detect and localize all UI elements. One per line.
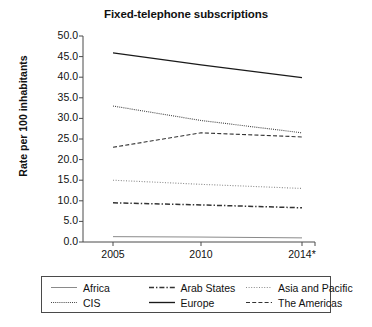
- chart-legend: AfricaArab StatesAsia and Pacific CISEur…: [41, 276, 331, 313]
- series-line-asia-and-pacific: [113, 180, 302, 188]
- legend-swatch-icon: [246, 298, 272, 307]
- legend-row: AfricaArab StatesAsia and Pacific: [46, 280, 326, 295]
- series-line-europe: [113, 53, 302, 78]
- legend-item-label: CIS: [83, 297, 101, 309]
- y-axis-tick-label: 5.0: [32, 214, 78, 226]
- series-line-cis: [113, 106, 302, 133]
- y-axis-tick-label: 25.0: [32, 132, 78, 144]
- page-title: Fixed-telephone subscriptions: [0, 8, 372, 20]
- y-axis-tick-labels: 0.05.010.015.020.025.030.035.040.045.050…: [26, 36, 78, 242]
- series-line-the-americas: [113, 133, 302, 147]
- legend-swatch-icon: [51, 283, 77, 292]
- y-axis-tick-label: 45.0: [32, 50, 78, 62]
- y-axis-tick-label: 10.0: [32, 194, 78, 206]
- y-axis-tick-label: 20.0: [32, 153, 78, 165]
- chart-canvas: [83, 36, 315, 242]
- legend-item-cis[interactable]: CIS: [46, 295, 149, 310]
- y-axis-tick-label: 50.0: [32, 29, 78, 41]
- legend-item-the-americas[interactable]: The Americas: [246, 295, 326, 310]
- legend-item-label: Europe: [181, 297, 215, 309]
- y-axis-tick-label: 35.0: [32, 91, 78, 103]
- legend-item-label: Africa: [83, 282, 110, 294]
- series-line-africa: [113, 237, 302, 238]
- chart-figure: Fixed-telephone subscriptions Rate per 1…: [0, 0, 372, 327]
- legend-swatch-icon: [149, 283, 175, 292]
- legend-item-label: Arab States: [181, 282, 236, 294]
- legend-item-asia-and-pacific[interactable]: Asia and Pacific: [246, 280, 326, 295]
- legend-item-label: The Americas: [278, 297, 342, 309]
- x-axis-tick-label: 2010: [189, 248, 212, 260]
- legend-row: CISEuropeThe Americas: [46, 295, 326, 310]
- plot-area: [83, 36, 315, 242]
- legend-swatch-icon: [149, 298, 175, 307]
- legend-swatch-icon: [51, 298, 77, 307]
- legend-item-africa[interactable]: Africa: [46, 280, 149, 295]
- y-axis-tick-label: 0.0: [32, 235, 78, 247]
- y-axis-tick-label: 30.0: [32, 111, 78, 123]
- x-axis-tick-labels: 200520102014*: [83, 248, 315, 264]
- legend-item-arab-states[interactable]: Arab States: [149, 280, 247, 295]
- x-axis-tick-label: 2014*: [288, 248, 315, 260]
- legend-item-label: Asia and Pacific: [278, 282, 353, 294]
- series-line-arab-states: [113, 203, 302, 208]
- x-axis-tick-label: 2005: [101, 248, 124, 260]
- y-axis-tick-label: 40.0: [32, 70, 78, 82]
- legend-item-europe[interactable]: Europe: [149, 295, 247, 310]
- legend-swatch-icon: [246, 283, 272, 292]
- y-axis-tick-label: 15.0: [32, 173, 78, 185]
